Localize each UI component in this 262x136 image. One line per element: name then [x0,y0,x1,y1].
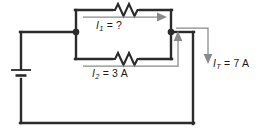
label-it-subscript: T [216,62,221,71]
circuit-diagram: I1 = ? I2 = 3 A IT = 7 A [0,0,262,136]
junction-left-node [73,29,80,36]
label-current-i1: I1 = ? [96,19,122,31]
junction-right-node [168,29,175,36]
label-it-equals: = [224,57,230,69]
i1-arrow-head [157,13,167,22]
battery-symbol [11,70,31,76]
junction-nodes [73,29,175,36]
label-i1-subscript: 1 [99,24,103,33]
label-i1-equals: = [107,19,113,31]
label-current-i2: I2 = 3 A [92,67,128,79]
i2-arrow-line [83,40,178,66]
label-i2-equals: = [103,67,109,79]
current-arrow-heads [157,13,212,64]
label-current-it: IT = 7 A [213,57,249,69]
resistor-bottom-icon [112,53,140,65]
label-i2-subscript: 2 [95,72,99,81]
label-i1-value: ? [116,19,122,31]
it-arrow-head [204,54,213,64]
label-it-value: 7 A [234,57,250,69]
label-i2-value: 3 A [112,67,128,79]
resistor-top-icon [112,4,140,16]
